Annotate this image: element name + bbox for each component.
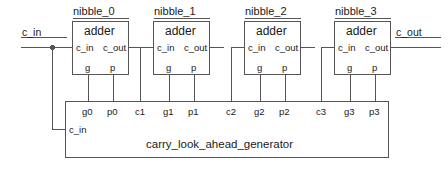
cla-pin-c1: c1 bbox=[135, 107, 145, 117]
c3-wire bbox=[322, 48, 335, 102]
nibble-3-pin-c-in: c_in bbox=[338, 43, 355, 53]
nibble-1-pin-c-out: c_out bbox=[184, 43, 207, 53]
nibble-1-pin-p: p bbox=[191, 63, 196, 73]
nibble-1-pin-c-in: c_in bbox=[157, 43, 174, 53]
nibble-0-pin-c-in: c_in bbox=[76, 43, 93, 53]
cla-pin-g0: g0 bbox=[82, 107, 93, 117]
cla-pin-p2: p2 bbox=[279, 107, 290, 117]
cla-pin-g1: g1 bbox=[163, 107, 174, 117]
nibble-3-title: nibble_3 bbox=[335, 6, 377, 17]
nibble-1-pin-g: g bbox=[166, 63, 171, 73]
nibble-2-pin-p: p bbox=[282, 63, 287, 73]
nibble-0-module-label: adder bbox=[84, 25, 115, 37]
nibble-2-pin-c-out: c_out bbox=[275, 43, 298, 53]
c-in-to-cla-path bbox=[53, 48, 66, 130]
nibble-3-pin-g: g bbox=[347, 63, 352, 73]
nibble-3-pin-p: p bbox=[372, 63, 377, 73]
cla-module-label: carry_look_ahead_generator bbox=[146, 139, 293, 151]
block-diagram-canvas: c_in c_out nibble_0 adder c_in c_out g p… bbox=[0, 0, 448, 171]
nibble-0-pin-c-out: c_out bbox=[103, 43, 126, 53]
nibble-2-title: nibble_2 bbox=[245, 6, 287, 17]
cla-pin-p1: p1 bbox=[188, 107, 199, 117]
cla-pin-c-in: c_in bbox=[69, 125, 86, 135]
cla-pin-g2: g2 bbox=[254, 107, 265, 117]
cla-pin-c2: c2 bbox=[226, 107, 236, 117]
cla-pin-p0: p0 bbox=[107, 107, 118, 117]
nibble-1-title: nibble_1 bbox=[154, 6, 196, 17]
port-label-c-in: c_in bbox=[22, 27, 41, 38]
c2-wire bbox=[232, 48, 245, 102]
nibble-2-pin-g: g bbox=[257, 63, 262, 73]
nibble-1-module-label: adder bbox=[165, 25, 196, 37]
nibble-0-pin-p: p bbox=[110, 63, 115, 73]
cla-pin-c3: c3 bbox=[316, 107, 326, 117]
c1-wire bbox=[141, 48, 154, 102]
nibble-2-pin-c-in: c_in bbox=[248, 43, 265, 53]
cla-pin-g3: g3 bbox=[344, 107, 355, 117]
nibble-0-title: nibble_0 bbox=[73, 6, 115, 17]
nibble-0-pin-g: g bbox=[85, 63, 90, 73]
nibble-3-pin-c-out: c_out bbox=[365, 43, 388, 53]
nibble-3-module-label: adder bbox=[346, 25, 377, 37]
port-label-c-out: c_out bbox=[396, 27, 422, 38]
nibble-2-module-label: adder bbox=[256, 25, 287, 37]
cla-pin-p3: p3 bbox=[369, 107, 380, 117]
